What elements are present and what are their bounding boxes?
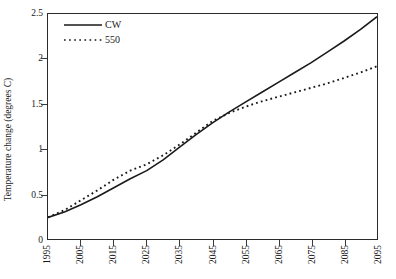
x-tick-label: 2045 [208, 245, 218, 264]
legend-item-550: 550 [62, 32, 172, 47]
x-tick-mark [113, 240, 114, 246]
data-curves [48, 14, 377, 239]
x-tick-label: 2095 [373, 245, 383, 264]
dotted-line-swatch [62, 35, 104, 45]
x-tick-label: 2055 [241, 245, 251, 264]
x-tick-mark [279, 240, 280, 246]
y-tick-label: 2.5 [31, 8, 43, 18]
x-tick-mark [312, 240, 313, 246]
y-tick-label: 0 [38, 235, 43, 245]
x-tick-mark [213, 240, 214, 246]
x-tick-label: 2085 [340, 245, 350, 264]
x-tick-mark [146, 240, 147, 246]
plot-area [47, 13, 378, 240]
y-axis-title: Temperature change (degrees C) [0, 0, 16, 279]
x-tick-mark [179, 240, 180, 246]
x-tick-mark [80, 240, 81, 246]
x-tick-mark [345, 240, 346, 246]
x-tick-label: 2065 [274, 245, 284, 264]
x-tick-mark [246, 240, 247, 246]
x-tick-label: 2005 [75, 245, 85, 264]
x-tick-label: 2025 [141, 245, 151, 264]
legend-label-550: 550 [104, 34, 120, 45]
x-tick-label: 2035 [174, 245, 184, 264]
legend-label-cw: CW [104, 19, 121, 30]
legend: CW 550 [62, 17, 172, 47]
x-tick-label: 1995 [42, 245, 52, 264]
x-tick-label: 2075 [307, 245, 317, 264]
chart-screenshot: Temperature change (degrees C) 00.511.52… [0, 0, 396, 279]
x-tick-label: 2015 [108, 245, 118, 264]
solid-line-swatch [62, 20, 104, 30]
legend-item-cw: CW [62, 17, 172, 32]
series-line-550 [48, 66, 377, 217]
